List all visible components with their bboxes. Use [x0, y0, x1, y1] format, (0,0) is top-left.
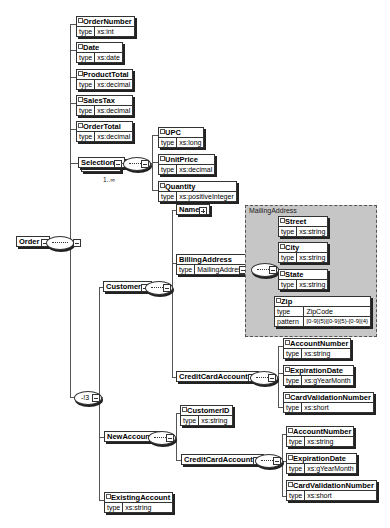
element-name: Quantity — [159, 182, 236, 191]
element-name: UnitPrice — [159, 155, 214, 164]
element-name: City — [279, 243, 327, 252]
element-accountnumber[interactable]: AccountNumber typexs:string — [283, 338, 351, 359]
element-quantity[interactable]: Quantity typexs:positiveInteger — [158, 181, 237, 202]
type-label: type — [284, 349, 302, 358]
element-name: UPC — [159, 128, 203, 137]
type-label: type — [77, 106, 95, 115]
type-label: type — [77, 53, 95, 62]
pattern-label: pattern — [275, 317, 304, 327]
collapse-icon[interactable] — [114, 160, 122, 168]
type-label: type — [279, 253, 297, 262]
element-name: CreditCardAccount — [177, 372, 258, 381]
type-label: type — [77, 80, 95, 89]
element-billingaddress[interactable]: BillingAddress typeMailingAddress — [176, 254, 248, 275]
collapse-icon[interactable] — [163, 284, 171, 292]
type-value: ZipCode — [304, 307, 370, 317]
choice-symbol: -!3 — [81, 392, 89, 404]
element-name: OrderNumber — [77, 17, 134, 26]
element-name: CreditCardAccount — [182, 455, 263, 464]
type-value: xs:string — [297, 253, 327, 262]
element-name: ProductTotal — [77, 70, 132, 79]
element-name: State — [279, 270, 327, 279]
element-name: BillingAddress — [177, 255, 247, 264]
element-upc[interactable]: UPC typexs:long — [158, 127, 204, 148]
schema-diagram: Order OrderNumber typexs:int Date typexs… — [0, 0, 390, 528]
element-unitprice[interactable]: UnitPrice typexs:decimal — [158, 154, 215, 175]
type-value: xs:decimal — [95, 106, 132, 115]
element-cardvalidationnumber-new[interactable]: CardValidationNumber typexs:short — [286, 480, 377, 501]
element-name: Street — [279, 217, 327, 226]
element-accountnumber-new[interactable]: AccountNumber typexs:string — [286, 426, 354, 447]
type-value: xs:string — [305, 437, 335, 446]
type-value: xs:short — [302, 403, 331, 412]
connector — [176, 413, 177, 461]
type-label: type — [105, 503, 123, 512]
element-ordertotal[interactable]: OrderTotal typexs:decimal — [76, 121, 133, 142]
element-name: Zip — [275, 297, 370, 306]
type-label: type — [287, 491, 305, 500]
element-name: OrderTotal — [77, 122, 132, 131]
connector — [152, 135, 153, 191]
collapse-icon[interactable] — [268, 374, 276, 382]
type-label: type — [177, 265, 195, 274]
expand-icon[interactable] — [199, 207, 207, 215]
type-value: xs:long — [177, 138, 203, 147]
element-city[interactable]: City typexs:string — [278, 242, 328, 263]
group-label: MailingAddress — [249, 207, 297, 214]
type-label: type — [159, 138, 177, 147]
collapse-icon[interactable] — [141, 160, 149, 168]
element-date[interactable]: Date typexs:date — [76, 42, 123, 63]
element-expirationdate[interactable]: ExpirationDate typexs:gYearMonth — [283, 365, 354, 386]
type-label: type — [181, 416, 199, 425]
type-label: type — [284, 403, 302, 412]
element-street[interactable]: Street typexs:string — [278, 216, 328, 237]
element-name: ExistingAccount — [105, 493, 172, 502]
element-name: Date — [77, 43, 122, 52]
element-zip[interactable]: Zip typeZipCode pattern[0-9]{5}|[0-9]{5}… — [274, 296, 371, 327]
connector — [278, 346, 279, 408]
element-salestax[interactable]: SalesTax typexs:decimal — [76, 95, 133, 116]
type-value: xs:string — [123, 503, 153, 512]
element-customerid[interactable]: CustomerID typexs:string — [180, 405, 233, 426]
element-cardvalidationnumber[interactable]: CardValidationNumber typexs:short — [283, 392, 374, 413]
collapse-icon[interactable] — [92, 394, 100, 402]
type-value: xs:decimal — [95, 132, 132, 141]
connector — [282, 434, 283, 496]
type-label: type — [159, 165, 177, 174]
collapse-icon[interactable] — [166, 434, 174, 442]
type-label: type — [279, 227, 297, 236]
element-name: ExpirationDate — [287, 454, 356, 463]
element-selection[interactable]: Selection — [78, 157, 125, 168]
element-expirationdate-new[interactable]: ExpirationDate typexs:gYearMonth — [286, 453, 357, 474]
element-name-node[interactable]: Name — [176, 204, 210, 215]
element-creditcardaccount[interactable]: CreditCardAccount — [176, 371, 259, 382]
element-ordernumber[interactable]: OrderNumber typexs:int — [76, 16, 135, 37]
type-value: xs:int — [95, 27, 115, 36]
type-value: xs:gYearMonth — [305, 464, 355, 473]
type-label: type — [275, 307, 304, 317]
type-value: xs:date — [95, 53, 122, 62]
element-existingaccount[interactable]: ExistingAccount typexs:string — [104, 492, 173, 513]
element-name: CustomerID — [181, 406, 232, 415]
element-producttotal[interactable]: ProductTotal typexs:decimal — [76, 69, 133, 90]
collapse-icon[interactable] — [73, 239, 81, 247]
collapse-icon[interactable] — [269, 266, 277, 274]
type-value: xs:decimal — [177, 165, 214, 174]
type-label: type — [77, 27, 95, 36]
collapse-icon[interactable] — [273, 457, 281, 465]
type-value: xs:string — [297, 227, 327, 236]
type-value: xs:gYearMonth — [302, 376, 352, 385]
type-value: xs:string — [199, 416, 229, 425]
pattern-value: [0-9]{5}|[0-9]{5}-[0-9]{4} — [304, 317, 370, 327]
element-state[interactable]: State typexs:string — [278, 269, 328, 290]
type-value: xs:string — [297, 280, 327, 289]
type-value: xs:positiveInteger — [177, 192, 235, 201]
sequence-compositor[interactable] — [46, 236, 74, 250]
type-value: xs:string — [302, 349, 332, 358]
type-label: type — [287, 437, 305, 446]
element-name: ExpirationDate — [284, 366, 353, 375]
type-label: type — [279, 280, 297, 289]
element-creditcardaccount-new[interactable]: CreditCardAccount — [181, 454, 264, 465]
element-name: SalesTax — [77, 96, 132, 105]
type-label: type — [77, 132, 95, 141]
